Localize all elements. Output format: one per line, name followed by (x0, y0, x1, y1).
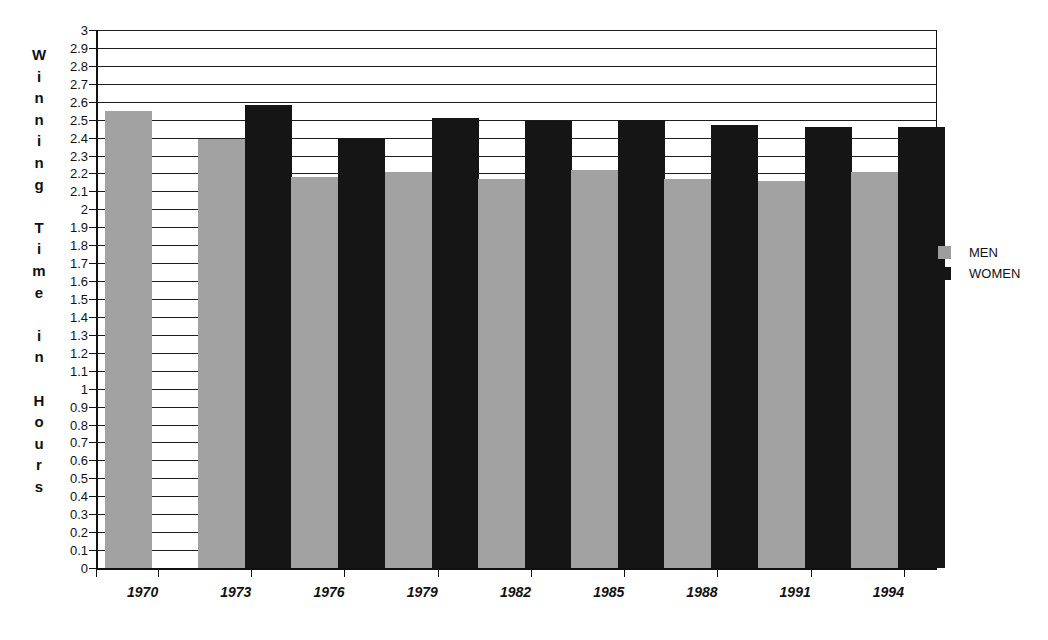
legend-item-men: MEN (938, 243, 1042, 261)
y-axis-title-char: s (24, 476, 54, 498)
y-axis-tick-mark (89, 496, 98, 497)
y-axis-tick-mark (89, 173, 98, 174)
y-axis-tick-label: 0.7 (70, 436, 88, 449)
y-axis-tick-label: 1.9 (70, 221, 88, 234)
y-axis-tick-mark (89, 299, 98, 300)
x-axis-tick-mark (811, 568, 812, 577)
y-axis-title-char: n (24, 87, 54, 109)
y-axis-tick-mark (89, 389, 98, 390)
y-axis-tick-mark (89, 102, 98, 103)
y-axis-title-char: H (24, 390, 54, 412)
y-axis-tick-label: 2.3 (70, 149, 88, 162)
x-axis-tick-mark (251, 568, 252, 577)
legend: MENWOMEN (938, 243, 1042, 285)
y-axis-tick-label: 2 (81, 203, 88, 216)
y-axis-tick-mark (89, 227, 98, 228)
y-axis-tick-mark (89, 245, 98, 246)
y-axis-tick-mark (89, 263, 98, 264)
bar-men-1985 (571, 170, 618, 568)
y-axis-tick-label: 0.3 (70, 508, 88, 521)
y-axis-tick-label: 1.7 (70, 257, 88, 270)
y-axis-tick-label: 2.2 (70, 167, 88, 180)
bar-women-1988 (711, 125, 758, 568)
x-axis-label-1982: 1982 (500, 584, 531, 600)
y-axis-tick-label: 2.9 (70, 41, 88, 54)
y-axis-title: Winning Time in Hours (24, 44, 54, 554)
x-axis-tick-mark (624, 568, 625, 577)
y-axis-title-char: n (24, 152, 54, 174)
y-axis-tick-mark (89, 66, 98, 67)
y-axis-title-char: m (24, 260, 54, 282)
bar-men-1991 (758, 181, 805, 568)
y-axis-title-char: i (24, 66, 54, 88)
y-axis-title-char: W (24, 44, 54, 66)
y-axis-tick-mark (89, 460, 98, 461)
y-axis-title-char: i (24, 238, 54, 260)
bar-men-1979 (385, 172, 432, 568)
bar-women-1994 (898, 127, 945, 568)
bar-women-1982 (525, 121, 572, 568)
bars-layer (98, 30, 937, 568)
y-axis-tick-mark (89, 138, 98, 139)
y-axis-tick-mark (89, 48, 98, 49)
y-axis-tick-mark (89, 407, 98, 408)
y-axis-tick-mark (89, 514, 98, 515)
bar-women-1973 (245, 105, 292, 568)
bar-women-1979 (432, 118, 479, 568)
bar-women-1976 (338, 138, 385, 568)
y-axis-tick-mark (89, 209, 98, 210)
y-axis-tick-mark (89, 478, 98, 479)
y-axis-tick-label: 0.5 (70, 472, 88, 485)
y-axis-tick-label: 0.1 (70, 544, 88, 557)
bar-men-1982 (478, 179, 525, 568)
x-axis-tick-mark (438, 568, 439, 577)
y-axis-tick-label: 0.4 (70, 490, 88, 503)
y-axis-tick-label: 2.1 (70, 185, 88, 198)
y-axis-tick-label: 1.6 (70, 275, 88, 288)
y-axis-title-char: n (24, 346, 54, 368)
y-axis-title-char: r (24, 454, 54, 476)
y-axis-tick-label: 1.4 (70, 310, 88, 323)
x-axis-tick-mark (531, 568, 532, 577)
bar-men-1976 (291, 177, 338, 568)
y-axis-title-char: g (24, 174, 54, 196)
x-axis-origin-tick (96, 568, 97, 577)
x-axis-label-1970: 1970 (127, 584, 158, 600)
y-axis-tick-mark (89, 371, 98, 372)
y-axis-tick-label: 2.4 (70, 131, 88, 144)
y-axis-tick-label: 0.9 (70, 400, 88, 413)
x-axis-label-1976: 1976 (313, 584, 344, 600)
y-axis-tick-label: 1.2 (70, 346, 88, 359)
legend-swatch-men (938, 246, 951, 259)
x-axis-label-1991: 1991 (780, 584, 811, 600)
y-axis-title-char: u (24, 433, 54, 455)
y-axis-title-char: o (24, 411, 54, 433)
legend-item-women: WOMEN (938, 264, 1042, 282)
x-axis-label-1988: 1988 (686, 584, 717, 600)
legend-label: MEN (969, 245, 998, 260)
y-axis-tick-mark (89, 550, 98, 551)
x-axis-tick-mark (904, 568, 905, 577)
x-axis-label-1994: 1994 (873, 584, 904, 600)
y-axis-tick-mark (89, 353, 98, 354)
y-axis-tick-mark (89, 120, 98, 121)
x-axis-label-1973: 1973 (220, 584, 251, 600)
y-axis-tick-label: 1.8 (70, 239, 88, 252)
y-axis-title-char: e (24, 282, 54, 304)
y-axis-tick-mark (89, 30, 98, 31)
y-axis-tick-label: 0.2 (70, 526, 88, 539)
bar-men-1988 (664, 179, 711, 568)
y-axis-tick-label: 0.8 (70, 418, 88, 431)
bar-men-1970 (105, 111, 152, 568)
y-axis-tick-mark (89, 191, 98, 192)
y-axis-tick-label: 2.8 (70, 59, 88, 72)
bar-women-1991 (805, 127, 852, 568)
y-axis-tick-mark (89, 317, 98, 318)
y-axis-tick-mark (89, 84, 98, 85)
y-axis-tick-label: 1.3 (70, 328, 88, 341)
x-axis: 197019731976197919821985198819911994 (96, 568, 937, 628)
y-axis-tick-label: 3 (81, 24, 88, 37)
bar-men-1994 (851, 172, 898, 568)
y-axis-tick-label: 1.5 (70, 293, 88, 306)
plot-area (96, 30, 937, 570)
